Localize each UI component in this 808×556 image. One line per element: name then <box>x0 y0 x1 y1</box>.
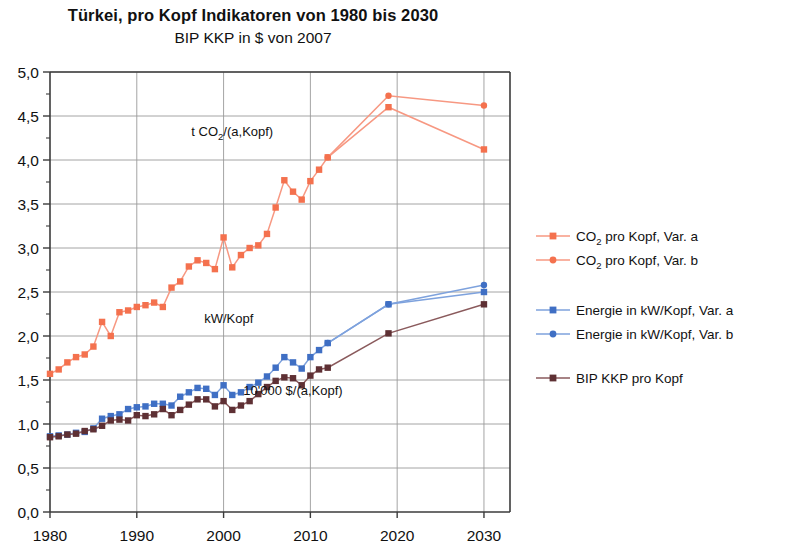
data-point-marker <box>151 411 157 417</box>
data-point-marker <box>238 252 244 258</box>
data-point-marker <box>64 359 70 365</box>
grid <box>50 72 510 512</box>
legend-item-label: CO2 pro Kopf, Var. a <box>576 229 699 247</box>
data-point-marker <box>108 333 114 339</box>
data-point-marker <box>99 319 105 325</box>
data-point-marker <box>325 364 331 370</box>
data-point-marker <box>116 309 122 315</box>
data-point-marker <box>281 177 287 183</box>
data-point-marker <box>272 204 278 210</box>
y-tick-label: 3,5 <box>17 196 39 213</box>
y-tick-label: 3,0 <box>17 240 39 257</box>
data-point-marker <box>160 406 166 412</box>
data-point-marker <box>212 403 218 409</box>
data-point-marker <box>168 284 174 290</box>
data-point-marker <box>82 351 88 357</box>
data-point-marker <box>177 394 183 400</box>
series-2 <box>47 289 487 440</box>
data-point-marker <box>238 402 244 408</box>
series-3 <box>325 282 488 346</box>
data-point-marker <box>220 398 226 404</box>
data-point-marker <box>325 154 331 160</box>
y-tick-label: 4,0 <box>17 152 39 169</box>
data-point-marker <box>203 386 209 392</box>
data-point-marker <box>90 343 96 349</box>
y-tick-label: 1,0 <box>17 416 39 433</box>
data-point-marker <box>316 347 322 353</box>
y-tick-label: 5,0 <box>17 64 39 81</box>
x-tick-label: 1980 <box>33 527 68 544</box>
x-tick-label: 2000 <box>206 527 241 544</box>
legend-item-label: Energie in kW/Kopf, Var. a <box>576 303 734 318</box>
co2-annotation: t CO2/(a,Kopf) <box>191 124 273 142</box>
data-point-marker <box>316 366 322 372</box>
data-point-marker <box>194 396 200 402</box>
legend-item-2[interactable]: Energie in kW/Kopf, Var. a <box>536 303 734 318</box>
data-point-marker <box>151 299 157 305</box>
page-subtitle: BIP KKP in $ von 2007 <box>174 29 331 46</box>
data-point-marker <box>385 301 391 307</box>
data-point-marker <box>168 402 174 408</box>
data-point-marker <box>108 417 114 423</box>
legend-item-1[interactable]: CO2 pro Kopf, Var. b <box>536 253 698 271</box>
data-point-marker <box>194 385 200 391</box>
data-point-marker <box>385 330 391 336</box>
data-point-marker <box>246 398 252 404</box>
data-point-marker <box>125 406 131 412</box>
data-point-marker <box>550 331 557 338</box>
data-point-marker <box>385 104 391 110</box>
data-point-marker <box>186 389 192 395</box>
data-point-marker <box>73 430 79 436</box>
legend-item-0[interactable]: CO2 pro Kopf, Var. a <box>536 229 699 247</box>
data-point-marker <box>481 301 487 307</box>
y-tick-label: 0,0 <box>17 504 39 521</box>
data-point-marker <box>203 396 209 402</box>
data-point-marker <box>281 374 287 380</box>
legend-item-label: CO2 pro Kopf, Var. b <box>576 253 698 271</box>
chart-svg: Türkei, pro Kopf Indikatoren von 1980 bi… <box>0 0 808 556</box>
data-point-marker <box>281 354 287 360</box>
data-point-marker <box>212 266 218 272</box>
data-point-marker <box>316 166 322 172</box>
x-tick-label: 1990 <box>120 527 155 544</box>
data-point-marker <box>186 401 192 407</box>
series-line <box>50 292 484 436</box>
data-point-marker <box>99 423 105 429</box>
data-point-marker <box>290 359 296 365</box>
data-point-marker <box>134 304 140 310</box>
data-point-marker <box>298 365 304 371</box>
y-tick-label: 2,0 <box>17 328 39 345</box>
data-point-marker <box>64 431 70 437</box>
data-point-marker <box>125 307 131 313</box>
legend-item-label: Energie in kW/Kopf, Var. b <box>576 327 733 342</box>
data-point-marker <box>82 428 88 434</box>
data-point-marker <box>125 417 131 423</box>
data-point-marker <box>55 433 61 439</box>
legend-item-4[interactable]: BIP KKP pro Kopf <box>536 371 683 386</box>
x-tick-label: 2030 <box>467 527 502 544</box>
data-point-marker <box>47 371 53 377</box>
data-point-marker <box>481 282 487 288</box>
data-point-marker <box>307 372 313 378</box>
data-point-marker <box>290 188 296 194</box>
y-tick-label: 2,5 <box>17 284 39 301</box>
data-point-marker <box>264 231 270 237</box>
annotations: t CO2/(a,Kopf)kW/Kopf10'000 $/(a,Kopf) <box>191 124 342 398</box>
legend-item-3[interactable]: Energie in kW/Kopf, Var. b <box>536 327 733 342</box>
data-point-marker <box>229 392 235 398</box>
y-tick-label: 4,5 <box>17 108 39 125</box>
legend-item-label: BIP KKP pro Kopf <box>576 371 683 386</box>
data-point-marker <box>298 196 304 202</box>
data-point-marker <box>177 278 183 284</box>
data-point-marker <box>168 412 174 418</box>
data-point-marker <box>550 375 557 382</box>
data-point-marker <box>481 102 487 108</box>
chart-figure: Türkei, pro Kopf Indikatoren von 1980 bi… <box>0 0 808 556</box>
data-point-marker <box>116 416 122 422</box>
data-point-marker <box>307 354 313 360</box>
data-point-marker <box>212 392 218 398</box>
y-tick-label: 1,5 <box>17 372 39 389</box>
data-point-marker <box>246 245 252 251</box>
data-point-marker <box>203 260 209 266</box>
page-title: Türkei, pro Kopf Indikatoren von 1980 bi… <box>68 6 438 24</box>
